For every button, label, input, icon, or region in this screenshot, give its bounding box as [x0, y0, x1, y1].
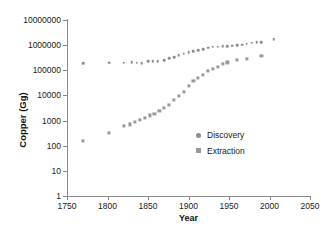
- data-point-extraction: [143, 117, 146, 120]
- x-tick: [229, 196, 230, 200]
- data-point-discovery: [108, 61, 111, 64]
- data-point-discovery: [246, 42, 249, 45]
- data-point-extraction: [236, 59, 239, 62]
- y-tick: [63, 20, 67, 21]
- copper-discovery-extraction-chart: Copper (Gg) Year 11010010001000010000010…: [0, 0, 325, 239]
- data-point-extraction: [197, 76, 200, 79]
- data-point-extraction: [82, 140, 85, 143]
- data-point-extraction: [158, 109, 161, 112]
- x-tick: [67, 196, 68, 200]
- x-tick: [189, 196, 190, 200]
- y-tick: [63, 70, 67, 71]
- data-point-discovery: [216, 45, 219, 48]
- x-tick-label: 1800: [98, 202, 117, 211]
- plot-area: 110100100010000100000100000010000000 175…: [67, 20, 310, 196]
- data-point-extraction: [206, 69, 209, 72]
- square-marker-icon: [196, 148, 201, 153]
- data-point-extraction: [148, 114, 151, 117]
- data-point-discovery: [260, 41, 263, 44]
- y-tick: [63, 95, 67, 96]
- x-axis-title: Year: [67, 213, 310, 223]
- y-tick-label: 10000000: [23, 16, 61, 25]
- legend-item-discovery: Discovery: [196, 131, 245, 140]
- y-axis-title: Copper (Gg): [17, 60, 28, 180]
- y-tick-label: 100000: [33, 66, 61, 75]
- x-tick: [148, 196, 149, 200]
- data-point-discovery: [163, 59, 166, 62]
- chart-legend: DiscoveryExtraction: [196, 131, 245, 162]
- data-point-discovery: [182, 52, 185, 55]
- data-point-extraction: [133, 120, 136, 123]
- data-point-discovery: [177, 54, 180, 57]
- data-point-discovery: [131, 61, 134, 64]
- data-point-discovery: [255, 41, 258, 44]
- y-tick-label: 1000: [42, 116, 61, 125]
- data-point-extraction: [153, 112, 156, 115]
- y-tick: [63, 121, 67, 122]
- circle-marker-icon: [196, 133, 201, 138]
- data-point-extraction: [226, 61, 229, 64]
- data-point-extraction: [108, 131, 111, 134]
- data-point-extraction: [221, 62, 224, 65]
- y-tick-label: 10: [52, 167, 61, 176]
- data-point-discovery: [192, 50, 195, 53]
- data-point-discovery: [187, 51, 190, 54]
- data-point-extraction: [187, 84, 190, 87]
- y-tick-label: 100: [47, 141, 61, 150]
- x-tick-label: 1850: [139, 202, 158, 211]
- data-point-extraction: [245, 57, 248, 60]
- data-point-discovery: [197, 49, 200, 52]
- data-point-discovery: [250, 41, 253, 44]
- data-point-extraction: [201, 73, 204, 76]
- x-tick-label: 1750: [58, 202, 77, 211]
- data-point-extraction: [211, 68, 214, 71]
- data-point-extraction: [192, 79, 195, 82]
- y-tick-label: 10000: [37, 91, 61, 100]
- x-tick: [310, 196, 311, 200]
- data-point-discovery: [231, 44, 234, 47]
- data-point-discovery: [202, 48, 205, 51]
- data-point-discovery: [236, 44, 239, 47]
- data-point-discovery: [135, 61, 138, 64]
- data-point-extraction: [216, 65, 219, 68]
- data-point-discovery: [156, 60, 159, 63]
- y-tick-label: 1: [56, 192, 61, 201]
- data-point-extraction: [129, 123, 132, 126]
- y-tick-label: 1000000: [28, 41, 61, 50]
- data-point-extraction: [167, 103, 170, 106]
- legend-label: Discovery: [207, 131, 244, 140]
- data-point-extraction: [182, 90, 185, 93]
- data-point-discovery: [140, 62, 143, 65]
- x-tick-label: 1950: [220, 202, 239, 211]
- data-point-discovery: [147, 60, 150, 63]
- data-point-discovery: [82, 62, 85, 65]
- data-point-extraction: [177, 94, 180, 97]
- data-point-discovery: [226, 45, 229, 48]
- data-point-discovery: [241, 43, 244, 46]
- x-tick: [108, 196, 109, 200]
- data-point-discovery: [221, 45, 224, 48]
- y-tick: [63, 171, 67, 172]
- data-point-discovery: [212, 45, 215, 48]
- data-point-extraction: [163, 106, 166, 109]
- data-point-discovery: [207, 46, 210, 49]
- data-point-extraction: [138, 118, 141, 121]
- x-tick-label: 2050: [301, 202, 320, 211]
- y-tick: [63, 146, 67, 147]
- data-point-discovery: [122, 61, 125, 64]
- data-point-extraction: [172, 99, 175, 102]
- data-point-discovery: [168, 57, 171, 60]
- x-tick-label: 1900: [179, 202, 198, 211]
- data-point-discovery: [173, 56, 176, 59]
- y-tick: [63, 45, 67, 46]
- data-point-discovery: [272, 38, 275, 41]
- data-point-extraction: [122, 124, 125, 127]
- legend-label: Extraction: [207, 147, 245, 156]
- legend-item-extraction: Extraction: [196, 147, 245, 156]
- x-tick: [270, 196, 271, 200]
- data-point-extraction: [260, 54, 263, 57]
- x-tick-label: 2000: [260, 202, 279, 211]
- data-point-discovery: [152, 60, 155, 63]
